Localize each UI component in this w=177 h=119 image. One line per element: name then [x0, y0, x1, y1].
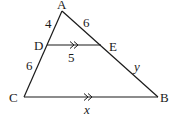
vertex-label-C: C — [9, 90, 18, 105]
segment-label-AE: 6 — [83, 15, 90, 30]
vertex-label-E: E — [109, 39, 117, 54]
side-AB — [62, 11, 158, 97]
segment-label-EB: y — [132, 59, 140, 74]
vertex-label-B: B — [160, 90, 169, 105]
segment-label-CB: x — [83, 102, 90, 117]
side-AC — [24, 11, 62, 97]
segment-label-AD: 4 — [45, 16, 52, 31]
triangle-diagram: A D E C B 4 6 5 6 y x — [0, 0, 177, 119]
segment-label-DE: 5 — [68, 50, 75, 65]
vertex-label-D: D — [34, 38, 43, 53]
vertex-label-A: A — [57, 0, 67, 12]
segment-label-DC: 6 — [26, 58, 33, 73]
